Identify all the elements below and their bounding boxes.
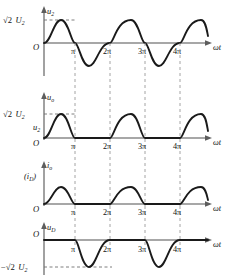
panel-ud-time-axis-label: ωt [213, 240, 222, 249]
panel-u2-tick-4pi: 4π [173, 47, 182, 56]
panel-u2-tick-3pi: 3π [138, 47, 147, 56]
panel-ud-amplitude-label: −√2 U2 [1, 262, 28, 273]
panel-io: io (iD) O π 2π 3π 4π ωt [24, 161, 222, 217]
panel-uo-signal-label: uo [47, 93, 54, 103]
panel-u2-y-arrow [41, 6, 47, 13]
panel-uo-y-arrow [41, 92, 47, 99]
panel-uo-tick-4pi: 4π [173, 142, 182, 151]
panel-u2-signal-label: u2 [47, 7, 54, 17]
panel-u2-origin-label: O [33, 42, 39, 52]
panel-io-curve [44, 187, 208, 204]
panel-ud-origin-label: O [33, 229, 39, 239]
panel-io-time-axis-label: ωt [213, 204, 222, 213]
panel-io-tick-4pi: 4π [173, 208, 182, 217]
panel-ud-tick-3pi: 3π [138, 245, 147, 254]
panel-u2-amplitude-label: √2 U2 [3, 15, 25, 26]
panel-uo: uo √2 U2 u2 O π 2π 3π 4π ωt [3, 92, 222, 151]
panel-uo-second-label: u2 [33, 123, 40, 133]
panel-ud-y-arrow [41, 222, 47, 229]
panel-io-tick-3pi: 3π [138, 208, 147, 217]
panel-ud-signal-label: uD [47, 223, 56, 233]
panel-ud-tick-2pi: 2π [103, 245, 112, 254]
panel-ud-curve [44, 240, 208, 267]
panel-io-y-arrow [41, 161, 47, 168]
panel-io-signal-label: io [47, 161, 52, 171]
panel-uo-tick-3pi: 3π [138, 142, 147, 151]
panel-ud-tick-pi: π [71, 245, 76, 254]
panel-u2: u2 √2 U2 O π 2π 3π 4π ωt [3, 6, 222, 76]
panel-uo-x-arrow [205, 135, 212, 140]
panel-io-diode-label: (iD) [24, 172, 36, 182]
panel-u2-time-axis-label: ωt [213, 43, 222, 52]
panel-uo-time-axis-label: ωt [213, 138, 222, 147]
panel-u2-tick-2pi: 2π [103, 47, 112, 56]
waveform-figure: u2 √2 U2 O π 2π 3π 4π ωt uo √2 U2 u2 O π… [0, 0, 233, 277]
dashed-grid [75, 43, 180, 247]
panel-uo-origin-label: O [33, 138, 39, 148]
panel-io-origin-label: O [33, 204, 39, 214]
panel-ud-tick-4pi: 4π [173, 245, 182, 254]
panel-uo-amplitude-label: √2 U2 [3, 109, 25, 120]
panel-ud: uD O −√2 U2 π 2π 3π 4π ωt [1, 222, 222, 275]
panel-io-tick-2pi: 2π [103, 208, 112, 217]
panel-uo-curve [44, 114, 208, 138]
panel-io-x-arrow [205, 201, 212, 206]
panel-uo-tick-2pi: 2π [103, 142, 112, 151]
panel-u2-x-arrow [205, 40, 212, 45]
waveform-svg: u2 √2 U2 O π 2π 3π 4π ωt uo √2 U2 u2 O π… [0, 0, 233, 277]
